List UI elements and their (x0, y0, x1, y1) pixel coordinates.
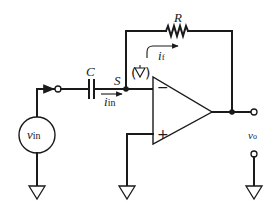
voltage-source: vin (19, 89, 55, 186)
svg-text:iin: iin (104, 94, 115, 109)
noninverting-ground-wire (119, 134, 153, 199)
input-wire (37, 86, 89, 92)
svg-text:): ) (145, 65, 150, 81)
svg-text:S: S (114, 73, 121, 88)
svg-text:C: C (86, 64, 95, 79)
feedback-current-arrow: if (147, 46, 178, 63)
output-terminal (251, 109, 257, 115)
svg-text:vin: vin (27, 127, 41, 142)
ground-icon (119, 186, 135, 199)
svg-text:if: if (158, 48, 165, 63)
opamp: − + (153, 77, 212, 144)
ground-icon (246, 186, 262, 199)
noninverting-input-sign: + (157, 126, 169, 142)
svg-text:vo: vo (248, 129, 257, 141)
svg-text:R: R (173, 10, 182, 25)
capacitor: C (86, 64, 95, 98)
output-wire: vo (212, 109, 262, 199)
differentiator-circuit: vin C S iin ( ) R (0, 0, 273, 214)
virtual-ground-icon: ( ) (131, 65, 150, 81)
inverting-input-sign: − (157, 79, 169, 95)
resistor (166, 26, 188, 36)
input-current-arrow: iin (101, 94, 122, 109)
svg-text:(: ( (131, 65, 136, 81)
ground-icon (29, 186, 45, 199)
